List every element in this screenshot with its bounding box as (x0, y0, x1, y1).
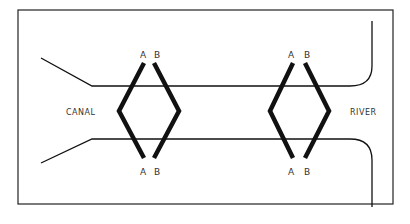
gate-right-a (270, 63, 293, 158)
label-left-a-top: A (140, 50, 147, 60)
diagram-frame (18, 10, 393, 204)
label-canal: CANAL (66, 108, 96, 117)
label-right-a-bottom: A (288, 167, 295, 177)
gate-right-b (305, 63, 329, 158)
label-left-b-top: B (154, 50, 160, 60)
gate-left-b (154, 63, 179, 158)
top-bank-line (41, 58, 350, 86)
label-right-b-top: B (304, 50, 310, 60)
label-left-a-bottom: A (140, 167, 147, 177)
bottom-bank-line (41, 139, 350, 163)
label-left-b-bottom: B (154, 167, 160, 177)
label-right-a-top: A (288, 50, 295, 60)
label-right-b-bottom: B (304, 167, 310, 177)
gate-left-a (119, 63, 144, 158)
lock-diagram: A B A B A B A B CANAL RIVER (0, 0, 410, 224)
river-bottom-edge (350, 139, 372, 207)
label-river: RIVER (350, 108, 377, 117)
river-top-edge (350, 21, 372, 86)
